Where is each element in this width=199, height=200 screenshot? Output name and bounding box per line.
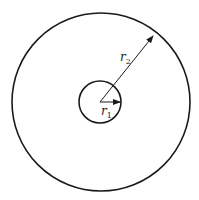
diagram-svg: r2 r1 [0, 0, 199, 200]
concentric-circles-diagram: r2 r1 [0, 0, 199, 200]
r1-label: r1 [101, 104, 112, 120]
r2-arrow [100, 36, 153, 102]
r2-label: r2 [120, 50, 131, 66]
